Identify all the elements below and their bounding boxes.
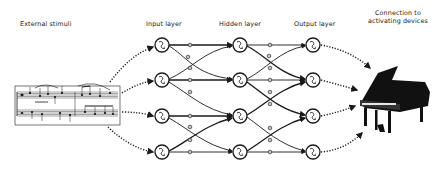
grand-piano-icon [360, 66, 430, 133]
output-node [306, 145, 320, 159]
sheet-music-icon [15, 84, 120, 125]
input-layer-nodes [155, 38, 169, 159]
hidden-to-output-connections [247, 45, 305, 152]
hidden-node [233, 73, 247, 87]
hidden-node [233, 145, 247, 159]
input-node [155, 73, 169, 87]
hidden-node [233, 38, 247, 52]
input-node [155, 38, 169, 52]
hidden-node [233, 109, 247, 123]
input-node [155, 145, 169, 159]
neural-network-diagram: F [0, 0, 445, 170]
output-layer-nodes [306, 38, 320, 159]
output-node [306, 73, 320, 87]
hidden-layer-nodes [233, 38, 247, 159]
output-node [306, 38, 320, 52]
output-to-device-connections [321, 45, 370, 152]
output-node [306, 109, 320, 123]
input-node [155, 109, 169, 123]
input-to-hidden-connections [169, 45, 232, 152]
